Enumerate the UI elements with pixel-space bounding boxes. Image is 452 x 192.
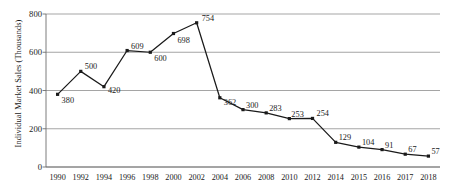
line-chart: Individual Market Sales (Thousands) 0200… <box>0 0 452 192</box>
x-tick-label: 2014 <box>328 173 344 182</box>
x-tick-label: 1996 <box>119 173 135 182</box>
x-tick-label: 2002 <box>188 173 204 182</box>
x-tick-label: 2015 <box>351 173 367 182</box>
data-point-marker <box>56 93 59 96</box>
x-tick-label: 2010 <box>281 173 297 182</box>
data-point-label: 300 <box>246 101 258 110</box>
x-tick-label: 2008 <box>258 173 274 182</box>
data-point-marker <box>79 70 82 73</box>
data-point-marker <box>380 148 383 151</box>
data-point-label: 283 <box>269 104 281 113</box>
data-point-label: 104 <box>362 138 374 147</box>
x-tick-label: 2000 <box>165 173 181 182</box>
data-point-marker <box>172 32 175 35</box>
data-point-label: 420 <box>108 86 120 95</box>
data-point-marker <box>427 155 430 158</box>
data-point-marker <box>126 49 129 52</box>
data-point-label: 380 <box>62 96 74 105</box>
x-tick-label: 2016 <box>374 173 390 182</box>
data-point-marker <box>404 153 407 156</box>
data-point-marker <box>149 51 152 54</box>
data-point-marker <box>102 85 105 88</box>
x-tick-label: 1998 <box>142 173 158 182</box>
x-tick-label: 1994 <box>96 173 112 182</box>
data-point-marker <box>311 117 314 120</box>
data-point-marker <box>195 21 198 24</box>
data-point-label: 253 <box>291 110 303 119</box>
data-point-label: 91 <box>385 141 393 150</box>
x-tick-label: 1990 <box>49 173 65 182</box>
data-point-marker <box>334 141 337 144</box>
data-point-label: 600 <box>154 54 166 63</box>
data-point-marker <box>357 146 360 149</box>
x-tick-label: 2006 <box>235 173 251 182</box>
data-point-label: 57 <box>431 147 439 156</box>
data-point-marker <box>265 111 268 114</box>
data-point-marker <box>218 96 221 99</box>
x-tick-label: 2018 <box>420 173 436 182</box>
data-point-label: 698 <box>177 36 189 45</box>
data-point-label: 254 <box>317 109 329 118</box>
data-point-label: 754 <box>202 14 214 23</box>
data-point-label: 609 <box>131 42 143 51</box>
data-point-label: 129 <box>339 133 351 142</box>
x-tick-label: 2004 <box>212 173 228 182</box>
data-point-label: 362 <box>224 98 236 107</box>
x-tick-label: 2017 <box>397 173 413 182</box>
data-point-label: 67 <box>408 145 416 154</box>
data-point-marker <box>241 108 244 111</box>
x-tick-label: 2012 <box>304 173 320 182</box>
x-tick-label: 1992 <box>73 173 89 182</box>
data-point-label: 500 <box>85 62 97 71</box>
